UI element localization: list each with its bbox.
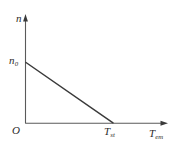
x-axis-arrow-icon [161, 121, 169, 126]
y-axis-label: n [16, 13, 22, 24]
origin-label: O [12, 125, 20, 136]
x-tick-subscript: st [110, 131, 115, 138]
plot-area [0, 0, 180, 145]
y-intercept-label: n0 [9, 55, 18, 66]
y-intercept-symbol: n [9, 54, 15, 66]
data-line-series-1 [26, 63, 113, 123]
x-tick-label-tst: Tst [104, 126, 115, 137]
y-intercept-subscript: 0 [15, 60, 18, 67]
y-axis-arrow-icon [23, 14, 28, 22]
x-axis-label: Tem [149, 128, 163, 139]
x-axis-subscript: em [155, 133, 163, 140]
figure-container: n n0 O Tst Tem [0, 0, 180, 145]
